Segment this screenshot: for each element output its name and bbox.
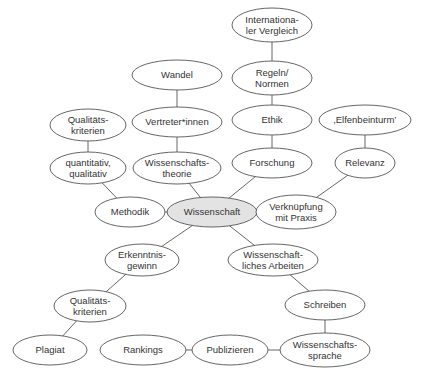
node-label: Wandel — [161, 69, 193, 80]
node-label: Schreiben — [304, 299, 347, 310]
node-rankings: Rankings — [100, 335, 186, 365]
node-label: Forschung — [250, 157, 295, 168]
node-relevanz: Relevanz — [335, 148, 395, 178]
node-qualitaet_top: Qualitäts-kriterien — [50, 109, 126, 141]
node-verknuepfung: Verknüpfungmit Praxis — [256, 195, 336, 229]
node-methodik: Methodik — [95, 197, 165, 227]
node-label: Erkenntnis- — [118, 249, 166, 260]
node-wandel: Wandel — [132, 60, 222, 90]
node-wisssprache: Wissenschafts-sprache — [280, 333, 370, 367]
node-elfenbeinturm: ‚Elfenbeinturm’ — [319, 105, 411, 135]
node-layer: Internationa-ler VergleichRegeln/NormenW… — [13, 8, 411, 367]
node-quantitativ: quantitativ,qualitativ — [50, 152, 126, 184]
mind-map-diagram: Internationa-ler VergleichRegeln/NormenW… — [0, 0, 424, 383]
node-international: Internationa-ler Vergleich — [232, 8, 312, 42]
node-label: Wissenschaft — [184, 206, 241, 217]
node-schreiben: Schreiben — [285, 290, 365, 320]
node-label: Internationa- — [245, 14, 298, 25]
node-forschung: Forschung — [232, 148, 312, 178]
node-publizieren: Publizieren — [192, 335, 268, 365]
node-wissarbeiten: Wissenschaft-liches Arbeiten — [228, 244, 318, 276]
node-label: ‚Elfenbeinturm’ — [334, 114, 397, 125]
node-regeln: Regeln/Normen — [232, 61, 312, 95]
node-label: Relevanz — [345, 157, 385, 168]
node-label: kriterien — [71, 125, 105, 136]
node-label: qualitativ — [69, 168, 107, 179]
node-label: Publizieren — [207, 344, 254, 355]
node-label: Regeln/ — [256, 67, 289, 78]
node-label: quantitativ, — [65, 157, 110, 168]
node-label: Ethik — [261, 114, 282, 125]
node-qualitaet_bottom: Qualitäts-kriterien — [54, 290, 126, 322]
node-label: theorie — [162, 168, 191, 179]
node-erkenntnis: Erkenntnis-gewinn — [105, 244, 179, 276]
node-label: Plagiat — [35, 344, 64, 355]
node-wisstheorie: Wissenschafts-theorie — [133, 152, 221, 184]
node-ethik: Ethik — [232, 105, 312, 135]
mind-map-canvas: Internationa-ler VergleichRegeln/NormenW… — [0, 0, 424, 383]
node-label: Wissenschafts- — [145, 157, 209, 168]
node-label: liches Arbeiten — [242, 260, 304, 271]
node-label: Wissenschafts- — [293, 339, 357, 350]
node-label: Vertreter*innen — [145, 116, 208, 127]
node-label: kriterien — [73, 306, 107, 317]
node-label: ler Vergleich — [246, 25, 298, 36]
node-wissenschaft: Wissenschaft — [167, 197, 257, 227]
node-label: Wissenschaft- — [243, 249, 303, 260]
node-label: Verknüpfung — [269, 201, 322, 212]
node-label: mit Praxis — [275, 212, 317, 223]
node-plagiat: Plagiat — [13, 335, 87, 365]
node-label: Rankings — [123, 344, 163, 355]
node-label: gewinn — [127, 260, 157, 271]
node-label: sprache — [308, 350, 342, 361]
node-label: Qualitäts- — [68, 114, 109, 125]
node-label: Methodik — [111, 206, 150, 217]
node-label: Normen — [255, 78, 289, 89]
node-label: Qualitäts- — [70, 295, 111, 306]
node-vertreter: Vertreter*innen — [132, 107, 222, 137]
